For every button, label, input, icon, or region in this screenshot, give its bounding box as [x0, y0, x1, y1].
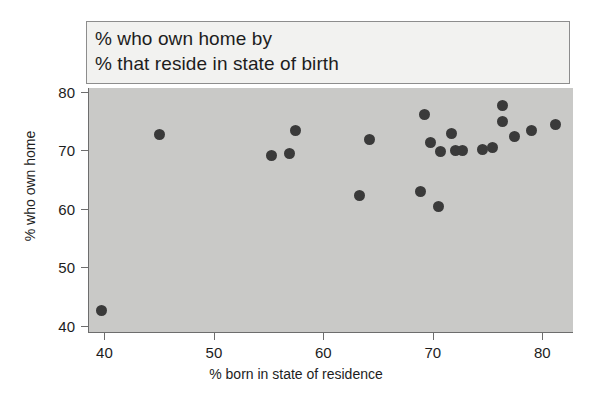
y-tick-mark — [81, 92, 88, 93]
y-tick-label: 40 — [35, 317, 75, 334]
plot-area — [88, 88, 573, 333]
y-tick-label: 60 — [35, 200, 75, 217]
scatter-point — [290, 125, 301, 136]
x-tick-label: 50 — [194, 344, 234, 361]
scatter-point — [433, 201, 444, 212]
y-tick-label: 80 — [35, 83, 75, 100]
x-axis-title: % born in state of residence — [0, 366, 592, 382]
x-tick-mark — [214, 333, 215, 340]
scatter-point — [487, 142, 498, 153]
scatter-point — [509, 131, 520, 142]
y-tick-label: 50 — [35, 259, 75, 276]
scatter-point — [425, 137, 436, 148]
scatter-point — [477, 144, 488, 155]
scatter-point — [354, 190, 365, 201]
y-tick-label: 70 — [35, 142, 75, 159]
y-tick-mark — [81, 209, 88, 210]
x-tick-label: 40 — [84, 344, 124, 361]
scatter-point — [457, 145, 468, 156]
scatter-point — [497, 116, 508, 127]
scatter-point — [435, 146, 446, 157]
x-tick-mark — [542, 333, 543, 340]
x-tick-mark — [104, 333, 105, 340]
scatter-point — [364, 134, 375, 145]
y-axis-title: % who own home — [22, 96, 38, 276]
scatter-plot-figure: % who own home by % that reside in state… — [0, 0, 592, 406]
x-tick-label: 70 — [413, 344, 453, 361]
chart-title-line-1: % who own home by — [95, 26, 569, 51]
chart-title-line-2: % that reside in state of birth — [95, 51, 569, 76]
scatter-point — [284, 148, 295, 159]
scatter-point — [526, 125, 537, 136]
scatter-point — [446, 128, 457, 139]
x-tick-label: 80 — [522, 344, 562, 361]
scatter-point — [266, 150, 277, 161]
y-tick-mark — [81, 326, 88, 327]
x-tick-label: 60 — [303, 344, 343, 361]
scatter-point — [497, 100, 508, 111]
x-tick-mark — [323, 333, 324, 340]
y-tick-mark — [81, 150, 88, 151]
scatter-point — [96, 305, 107, 316]
scatter-point — [154, 129, 165, 140]
scatter-point — [419, 109, 430, 120]
scatter-point — [415, 186, 426, 197]
y-tick-mark — [81, 267, 88, 268]
scatter-point — [550, 119, 561, 130]
chart-title-box: % who own home by % that reside in state… — [86, 21, 570, 84]
x-tick-mark — [433, 333, 434, 340]
scatter-points-layer — [89, 88, 573, 332]
